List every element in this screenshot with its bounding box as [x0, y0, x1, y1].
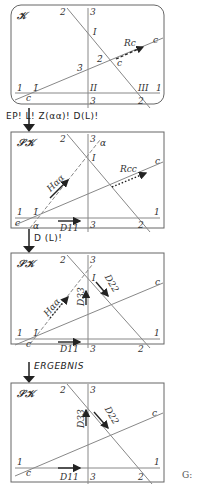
svg-text:2̄: 2̄	[96, 54, 103, 64]
svg-text:3: 3	[90, 7, 96, 17]
svg-text:1̄: 1̄	[33, 83, 39, 93]
step-arrow-3: ERGEBNIS	[23, 361, 84, 383]
step-arrow-2: D (L)!	[23, 229, 62, 253]
panel-title: 𝒦	[16, 10, 30, 21]
panel-sk-2: 𝒮𝒦 2 3 I Hαα D33 D22 c 1 1̄ 1 c D11 3 2	[11, 253, 164, 354]
svg-text:D11: D11	[59, 344, 79, 354]
svg-text:Rc: Rc	[123, 38, 136, 48]
svg-text:1: 1	[17, 83, 23, 93]
svg-text:3̄: 3̄	[77, 63, 83, 73]
panel-sk-result: 𝒮𝒦 2 3 D33 D22 c 1 1 c D11 3 2	[11, 383, 164, 484]
svg-text:c: c	[155, 156, 160, 166]
svg-text:1̄: 1̄	[33, 328, 39, 338]
svg-text:1: 1	[17, 328, 23, 338]
svg-text:2: 2	[59, 385, 66, 395]
svg-text:c: c	[153, 35, 158, 45]
svg-text:I: I	[91, 273, 96, 283]
svg-text:I: I	[92, 27, 97, 37]
svg-text:1: 1	[156, 83, 162, 93]
svg-text:2: 2	[59, 7, 66, 17]
svg-text:1: 1	[154, 207, 160, 217]
diagram-canvas: 𝒦 2 3 I Rc c 2̄ c 3̄ 1 1̄ II III 1 c 3 2…	[0, 0, 199, 486]
svg-text:III: III	[137, 83, 149, 93]
svg-text:D (L)!: D (L)!	[34, 233, 62, 243]
svg-text:II: II	[89, 83, 98, 93]
svg-text:Hαα: Hαα	[41, 297, 62, 320]
svg-text:1: 1	[154, 328, 160, 338]
svg-text:3: 3	[90, 134, 96, 144]
svg-text:c: c	[152, 408, 157, 418]
panel-k: 𝒦 2 3 I Rc c 2̄ c 3̄ 1 1̄ II III 1 c 3 2	[11, 5, 164, 108]
svg-text:c: c	[15, 218, 20, 228]
svg-text:ERGEBNIS: ERGEBNIS	[34, 361, 84, 371]
svg-text:𝒮𝒦: 𝒮𝒦	[16, 258, 38, 269]
svg-text:α: α	[100, 138, 106, 148]
svg-text:D22: D22	[102, 404, 121, 426]
svg-text:2: 2	[137, 344, 144, 354]
svg-text:I: I	[91, 153, 96, 163]
svg-text:3: 3	[90, 385, 96, 395]
svg-text:1: 1	[17, 457, 23, 467]
svg-text:c: c	[117, 58, 122, 68]
svg-text:α: α	[33, 221, 39, 231]
figure-label: G:	[182, 470, 192, 480]
svg-text:D33: D33	[76, 287, 86, 307]
panel-sk-1: 𝒮𝒦 2 3 α I Hαα Rcc c 1 1̄ 1 c α D11 3 2	[11, 132, 164, 233]
svg-text:2: 2	[137, 472, 144, 482]
svg-text:c: c	[26, 339, 31, 349]
svg-text:𝒮𝒦: 𝒮𝒦	[16, 137, 38, 148]
svg-text:Hαα: Hαα	[44, 172, 66, 194]
svg-text:3: 3	[90, 472, 96, 482]
svg-text:3: 3	[90, 255, 96, 265]
svg-text:3: 3	[90, 220, 96, 230]
svg-text:2: 2	[59, 255, 66, 265]
svg-text:3: 3	[90, 96, 96, 106]
svg-text:c: c	[155, 277, 160, 287]
svg-text:D22: D22	[102, 272, 121, 294]
svg-text:2: 2	[59, 134, 66, 144]
svg-text:𝒮𝒦: 𝒮𝒦	[16, 388, 38, 399]
svg-text:D33: D33	[76, 409, 86, 429]
svg-text:2: 2	[137, 220, 144, 230]
svg-text:1: 1	[17, 207, 23, 217]
step-label: EP! L! Z(αα)! D(L)!	[6, 111, 99, 121]
step-arrow-1: EP! L! Z(αα)! D(L)!	[6, 108, 99, 132]
svg-text:c: c	[26, 468, 31, 478]
svg-text:1̄: 1̄	[33, 207, 39, 217]
svg-text:D11: D11	[59, 223, 79, 233]
svg-text:D11: D11	[59, 472, 79, 482]
svg-text:Rcc: Rcc	[119, 164, 137, 174]
svg-text:1: 1	[154, 457, 160, 467]
svg-text:c: c	[26, 93, 31, 103]
svg-text:3: 3	[90, 344, 96, 354]
svg-text:2: 2	[137, 96, 144, 106]
